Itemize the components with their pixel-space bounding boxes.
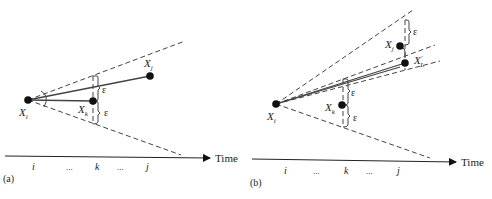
segment-xi-xl-2 — [276, 67, 400, 104]
epsilon-label: ε — [353, 112, 357, 123]
time-axis — [5, 156, 210, 158]
point-xj — [146, 72, 154, 80]
label-xj: Xj — [384, 38, 394, 53]
epsilon-label: ε — [351, 87, 355, 98]
epsilon-label: ε — [413, 26, 417, 37]
tick-label: j — [395, 165, 400, 176]
tick-label: i — [284, 165, 287, 176]
tick-label: ... — [313, 166, 320, 176]
panel-a: ε ε Xi Xk Xj Time i ... k ... j (a) — [3, 41, 238, 185]
epsilon-brace-lower — [343, 105, 350, 127]
diagram-canvas: ε ε Xi Xk Xj Time i ... k ... j (a) ε ε … — [0, 0, 492, 199]
point-xl — [401, 59, 409, 67]
inner-lower-bound-line — [276, 61, 440, 104]
panel-label: (b) — [250, 177, 262, 189]
epsilon-label: ε — [102, 84, 106, 95]
panel-b: ε ε ε Xi Xk Xj X'L Time i ... k ... j (b… — [250, 10, 484, 189]
segment-xi-xk — [28, 100, 93, 101]
label-xj: Xj — [143, 57, 153, 72]
label-xk: Xk — [324, 101, 336, 116]
point-xi — [24, 96, 32, 104]
label-xi: Xi — [266, 110, 276, 125]
tick-label: i — [32, 161, 35, 172]
upper-bound-line — [28, 41, 185, 100]
time-axis-label: Time — [215, 152, 238, 164]
tick-label: ... — [117, 162, 124, 172]
point-xk — [89, 97, 97, 105]
time-axis — [252, 159, 456, 162]
tick-label: k — [344, 165, 349, 176]
inner-upper-bound-line — [276, 45, 435, 104]
outer-upper-bound-line — [276, 10, 413, 104]
label-xi: Xi — [18, 106, 28, 121]
epsilon-brace-upper — [93, 76, 100, 101]
point-xk — [338, 101, 346, 109]
time-axis-label: Time — [461, 156, 484, 168]
epsilon-label: ε — [104, 107, 108, 118]
panel-label: (a) — [3, 173, 14, 185]
epsilon-brace-top — [405, 20, 411, 45]
tick-label: k — [95, 161, 100, 172]
point-xi — [272, 100, 280, 108]
tick-label: ... — [366, 166, 373, 176]
tick-label: ... — [66, 162, 73, 172]
point-xj — [396, 42, 404, 50]
label-xk: Xk — [77, 103, 89, 118]
tick-label: j — [144, 161, 149, 172]
